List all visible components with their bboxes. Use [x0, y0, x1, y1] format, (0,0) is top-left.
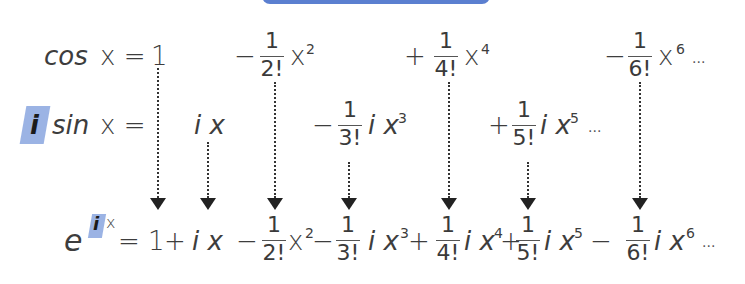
sin-x-equals: x =	[100, 112, 145, 138]
cos-term-1: 1	[151, 43, 168, 69]
cos-term-4-sign: −	[604, 43, 626, 69]
exp-plus-1: +	[164, 228, 186, 254]
isin-term-1: i x	[194, 112, 225, 138]
exp-ix3: i x	[368, 228, 399, 254]
isin-term-3-ix: i x	[540, 112, 571, 138]
arrow-down-icon	[341, 198, 357, 210]
arrow-down-icon	[150, 198, 166, 210]
denominator: 3!	[334, 242, 362, 264]
numerator: 1	[626, 30, 654, 52]
cos-term-4-power: 6	[676, 42, 685, 56]
cos-label: cos	[44, 43, 88, 69]
cos-x-equals: x =	[100, 43, 145, 69]
numerator: 1	[334, 214, 362, 236]
denominator: 3!	[336, 127, 364, 149]
denominator: 4!	[434, 242, 462, 264]
denominator: 2!	[258, 58, 286, 80]
dashed-line-x5	[527, 162, 529, 198]
exp-equals: =	[118, 228, 140, 254]
numerator: 1	[514, 214, 542, 236]
denominator: 2!	[260, 242, 288, 264]
denominator: 5!	[514, 242, 542, 264]
cos-term-4-x: x	[658, 43, 673, 69]
numerator: 1	[432, 30, 460, 52]
exp-minus-6: −	[590, 228, 612, 254]
exp-term-ix: i x	[192, 228, 223, 254]
dashed-line-1	[157, 68, 159, 198]
isin-term-2-power: 3	[398, 111, 407, 125]
cos-ellipsis: ···	[692, 54, 705, 70]
exp-exponent-i: i	[93, 215, 99, 233]
exp-base-e: e	[64, 226, 82, 256]
exp-minus-2: −	[236, 228, 258, 254]
isin-term-2-sign: −	[312, 112, 334, 138]
cos-term-3-x: x	[464, 43, 479, 69]
arrow-down-icon	[632, 198, 648, 210]
isin-term-3-sign: +	[488, 112, 510, 138]
dashed-line-x2	[274, 82, 276, 198]
numerator: 1	[260, 214, 288, 236]
arrow-down-icon	[200, 198, 216, 210]
arrow-down-icon	[267, 198, 283, 210]
numerator: 1	[510, 99, 538, 121]
exp-ellipsis: ···	[702, 238, 715, 254]
cos-term-2-power: 2	[306, 42, 315, 56]
dashed-line-x6	[639, 82, 641, 198]
cos-term-2-sign: −	[234, 43, 256, 69]
isin-term-3-power: 5	[570, 111, 579, 125]
exp-x2: x	[288, 228, 303, 254]
dashed-line-x4	[448, 82, 450, 198]
numerator: 1	[336, 99, 364, 121]
dashed-line-ix	[207, 142, 209, 198]
numerator: 1	[434, 214, 462, 236]
isin-ellipsis: ···	[588, 123, 601, 139]
exp-minus-3: −	[312, 228, 334, 254]
cos-term-2-x: x	[290, 43, 305, 69]
cos-term-3-sign: +	[404, 43, 426, 69]
exp-power-6: 6	[686, 226, 695, 240]
exp-exponent-x: x	[106, 215, 115, 231]
numerator: 1	[258, 30, 286, 52]
isin-term-2-ix: i x	[368, 112, 399, 138]
sin-label: sin	[52, 112, 89, 138]
imaginary-i-label: i	[30, 112, 39, 138]
denominator: 5!	[510, 127, 538, 149]
denominator: 6!	[624, 242, 652, 264]
exp-power-5: 5	[574, 226, 583, 240]
exp-term-1: 1	[148, 228, 165, 254]
denominator: 4!	[432, 58, 460, 80]
exp-ix5: i x	[544, 228, 575, 254]
dashed-line-x3	[348, 162, 350, 198]
exp-ix4: i x	[464, 228, 495, 254]
arrow-down-icon	[520, 198, 536, 210]
exp-ix6: i x	[654, 228, 685, 254]
exp-plus-4: +	[408, 228, 430, 254]
header-bar	[262, 0, 490, 4]
denominator: 6!	[626, 58, 654, 80]
numerator: 1	[624, 214, 652, 236]
cos-term-3-power: 4	[481, 42, 490, 56]
arrow-down-icon	[441, 198, 457, 210]
